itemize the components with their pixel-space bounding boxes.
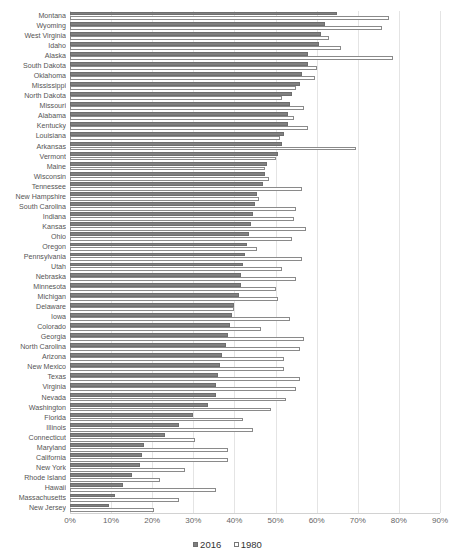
bar-2016[interactable] (70, 243, 247, 247)
bar-2016[interactable] (70, 232, 249, 236)
bar-2016[interactable] (70, 152, 278, 156)
bar-2016[interactable] (70, 283, 241, 287)
bar-2016[interactable] (70, 383, 216, 387)
bar-1980[interactable] (70, 448, 228, 452)
bar-1980[interactable] (70, 347, 300, 351)
bar-2016[interactable] (70, 42, 319, 46)
bar-2016[interactable] (70, 12, 337, 16)
bar-2016[interactable] (70, 413, 193, 417)
legend-item-2016[interactable]: 2016 (193, 539, 221, 550)
bar-2016[interactable] (70, 293, 239, 297)
bar-2016[interactable] (70, 453, 142, 457)
bar-2016[interactable] (70, 122, 288, 126)
bar-1980[interactable] (70, 267, 282, 271)
bar-1980[interactable] (70, 498, 179, 502)
bar-1980[interactable] (70, 147, 356, 151)
bar-1980[interactable] (70, 438, 195, 442)
bar-2016[interactable] (70, 303, 234, 307)
bar-2016[interactable] (70, 323, 230, 327)
bar-1980[interactable] (70, 56, 393, 60)
bar-1980[interactable] (70, 307, 234, 311)
bar-2016[interactable] (70, 463, 140, 467)
bar-1980[interactable] (70, 116, 294, 120)
bar-1980[interactable] (70, 16, 389, 20)
bar-1980[interactable] (70, 227, 306, 231)
bar-1980[interactable] (70, 187, 302, 191)
bar-2016[interactable] (70, 403, 208, 407)
bar-2016[interactable] (70, 32, 321, 36)
bar-1980[interactable] (70, 287, 276, 291)
bar-1980[interactable] (70, 106, 304, 110)
bar-1980[interactable] (70, 377, 300, 381)
bar-2016[interactable] (70, 112, 288, 116)
bar-1980[interactable] (70, 327, 261, 331)
bar-2016[interactable] (70, 192, 257, 196)
bar-1980[interactable] (70, 488, 216, 492)
bar-2016[interactable] (70, 483, 123, 487)
bar-1980[interactable] (70, 428, 253, 432)
bar-1980[interactable] (70, 76, 315, 80)
bar-2016[interactable] (70, 222, 251, 226)
bar-1980[interactable] (70, 408, 271, 412)
bar-1980[interactable] (70, 357, 284, 361)
bar-1980[interactable] (70, 337, 304, 341)
bar-1980[interactable] (70, 26, 382, 30)
bar-2016[interactable] (70, 393, 216, 397)
bar-2016[interactable] (70, 172, 265, 176)
bar-2016[interactable] (70, 423, 179, 427)
bar-1980[interactable] (70, 66, 317, 70)
bar-1980[interactable] (70, 297, 278, 301)
bar-2016[interactable] (70, 333, 228, 337)
bar-2016[interactable] (70, 62, 308, 66)
bar-2016[interactable] (70, 443, 144, 447)
bar-1980[interactable] (70, 367, 284, 371)
bar-2016[interactable] (70, 273, 241, 277)
bar-1980[interactable] (70, 317, 290, 321)
bar-2016[interactable] (70, 22, 325, 26)
bar-2016[interactable] (70, 373, 218, 377)
bar-2016[interactable] (70, 313, 232, 317)
bar-1980[interactable] (70, 217, 294, 221)
bar-1980[interactable] (70, 157, 276, 161)
bar-1980[interactable] (70, 398, 286, 402)
bar-2016[interactable] (70, 343, 226, 347)
bar-1980[interactable] (70, 237, 292, 241)
bar-1980[interactable] (70, 257, 302, 261)
bar-1980[interactable] (70, 96, 282, 100)
bar-1980[interactable] (70, 136, 280, 140)
bar-1980[interactable] (70, 36, 329, 40)
bar-1980[interactable] (70, 418, 243, 422)
bar-2016[interactable] (70, 363, 220, 367)
bar-1980[interactable] (70, 86, 296, 90)
bar-2016[interactable] (70, 494, 115, 498)
bar-1980[interactable] (70, 277, 296, 281)
bar-1980[interactable] (70, 177, 269, 181)
bar-1980[interactable] (70, 46, 341, 50)
bar-1980[interactable] (70, 508, 154, 512)
bar-1980[interactable] (70, 247, 257, 251)
bar-2016[interactable] (70, 182, 263, 186)
bar-1980[interactable] (70, 387, 296, 391)
bar-1980[interactable] (70, 197, 259, 201)
bar-1980[interactable] (70, 458, 228, 462)
bar-2016[interactable] (70, 473, 132, 477)
bar-2016[interactable] (70, 212, 253, 216)
bar-1980[interactable] (70, 126, 308, 130)
bar-2016[interactable] (70, 92, 292, 96)
bar-2016[interactable] (70, 162, 267, 166)
bar-1980[interactable] (70, 167, 265, 171)
bar-2016[interactable] (70, 132, 284, 136)
bar-2016[interactable] (70, 202, 255, 206)
bar-1980[interactable] (70, 468, 185, 472)
bar-2016[interactable] (70, 72, 302, 76)
legend-item-1980[interactable]: 1980 (234, 539, 262, 550)
bar-2016[interactable] (70, 52, 308, 56)
bar-2016[interactable] (70, 142, 282, 146)
bar-2016[interactable] (70, 353, 222, 357)
bar-1980[interactable] (70, 207, 296, 211)
bar-2016[interactable] (70, 433, 165, 437)
bar-2016[interactable] (70, 253, 245, 257)
bar-2016[interactable] (70, 263, 243, 267)
bar-2016[interactable] (70, 504, 109, 508)
bar-2016[interactable] (70, 82, 300, 86)
